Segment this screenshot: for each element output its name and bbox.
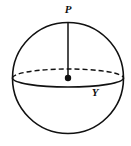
vertex-label-p: P [65,3,72,15]
sphere-diagram-canvas: P Y [0,0,131,146]
vertex-label-y: Y [92,86,100,98]
sphere-figure-svg: P Y [0,0,131,146]
sphere-center-dot [65,75,71,81]
